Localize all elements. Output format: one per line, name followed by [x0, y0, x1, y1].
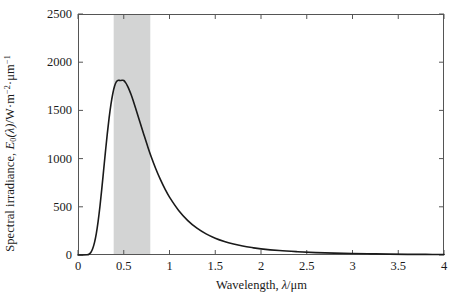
- y-tick-label: 500: [0, 199, 72, 214]
- figure: Spectral irradiance, E0(λ)/W·m−2·μm−1 00…: [0, 0, 465, 307]
- x-axis-title: Wavelength, λ/μm: [78, 278, 445, 293]
- y-tick-label: 2500: [0, 7, 72, 22]
- y-tick-label: 2000: [0, 55, 72, 70]
- y-tick-label: 1000: [0, 151, 72, 166]
- x-tick-label: 2: [258, 259, 264, 274]
- x-tick-label: 3.5: [390, 259, 406, 274]
- visible-spectrum-band: [114, 14, 151, 255]
- x-tick-label: 1: [166, 259, 172, 274]
- x-tick-label: 0: [75, 259, 81, 274]
- x-tick-label: 4: [441, 259, 447, 274]
- y-tick-label: 0: [0, 248, 72, 263]
- x-tick-label: 0.5: [116, 259, 132, 274]
- x-tick-label: 2.5: [299, 259, 315, 274]
- x-axis-title-name: Wavelength,: [216, 278, 279, 292]
- y-tick-label: 1500: [0, 103, 72, 118]
- x-axis-unit: μm: [291, 278, 307, 292]
- x-tick-label: 3: [349, 259, 355, 274]
- band-layer: [114, 14, 151, 255]
- x-tick-label: 1.5: [207, 259, 223, 274]
